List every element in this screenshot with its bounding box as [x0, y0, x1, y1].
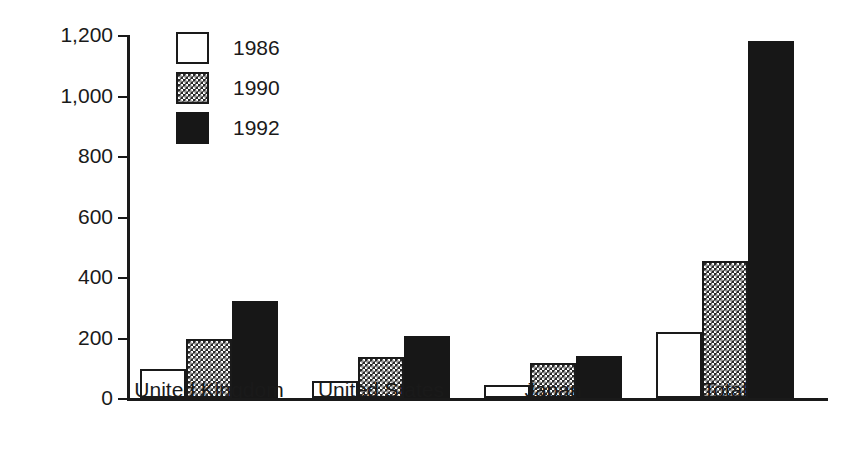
legend-swatch-1990: [176, 72, 209, 104]
y-tick-label: 800: [78, 144, 113, 168]
legend: 198619901992: [176, 28, 280, 148]
y-tick-label: 400: [78, 265, 113, 289]
bar-chart: US$ bn 1,2001,0008006004002000 United Ki…: [0, 0, 859, 456]
y-tick-mark: [118, 338, 127, 340]
legend-item: 1992: [176, 108, 280, 148]
legend-label: 1990: [233, 76, 280, 100]
bar: [748, 41, 794, 398]
y-tick-label: 200: [78, 326, 113, 350]
x-axis-label: Total: [615, 378, 835, 402]
y-tick-label: 600: [78, 205, 113, 229]
legend-item: 1986: [176, 28, 280, 68]
y-tick-mark: [118, 217, 127, 219]
legend-swatch-1986: [176, 32, 209, 64]
legend-label: 1986: [233, 36, 280, 60]
y-tick-label: 1,200: [60, 23, 113, 47]
y-tick-label: 1,000: [60, 84, 113, 108]
y-tick-mark: [118, 35, 127, 37]
y-tick-mark: [118, 156, 127, 158]
y-axis-line: [127, 35, 130, 398]
y-tick-mark: [118, 96, 127, 98]
legend-swatch-1992: [176, 112, 209, 144]
legend-label: 1992: [233, 116, 280, 140]
y-tick-mark: [118, 277, 127, 279]
legend-item: 1990: [176, 68, 280, 108]
